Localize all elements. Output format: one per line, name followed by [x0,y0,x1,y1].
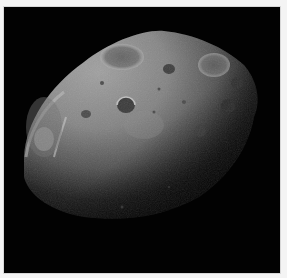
photo-frame [3,6,281,274]
phobos-moon-image [4,7,281,274]
